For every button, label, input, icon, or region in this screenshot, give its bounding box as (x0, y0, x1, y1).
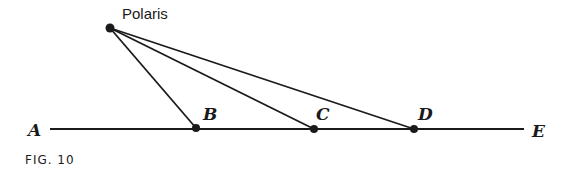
point-label-c: C (316, 104, 330, 124)
point-dot-c (310, 125, 318, 133)
point-label-d: D (417, 104, 433, 124)
point-label-b: B (202, 104, 217, 124)
polaris-dot (106, 24, 115, 33)
polaris-sightline-diagram: Polaris A E B C D (0, 0, 578, 171)
polaris-label: Polaris (122, 5, 168, 22)
point-label-a: A (26, 120, 41, 140)
sightline-polaris-d (110, 28, 414, 129)
sightlines-from-polaris (110, 28, 414, 129)
figure-caption: FIG. 10 (25, 153, 75, 167)
point-label-e: E (531, 121, 546, 141)
point-dot-d (410, 125, 418, 133)
point-dot-b (192, 124, 200, 132)
